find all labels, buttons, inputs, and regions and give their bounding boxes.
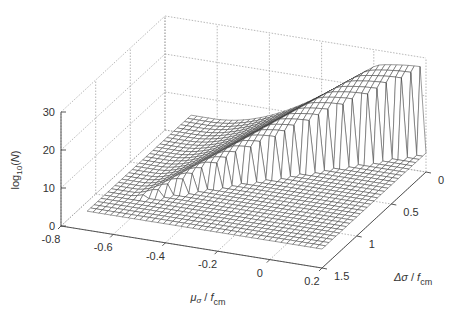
z-axis-label: log10(N) bbox=[9, 151, 24, 190]
z-tick-label: 0 bbox=[49, 220, 55, 232]
z-tick-label: 10 bbox=[43, 182, 55, 194]
z-tick-label: 20 bbox=[43, 144, 55, 156]
y-tick-mark bbox=[391, 204, 396, 205]
y-tick-label: 0.5 bbox=[403, 206, 418, 218]
left-wall-grid-line bbox=[61, 16, 165, 112]
z-tick-label: 30 bbox=[43, 106, 55, 118]
y-tick-label: 1.5 bbox=[334, 270, 349, 282]
back-wall-grid-line bbox=[165, 16, 426, 58]
x-tick-label: -0.2 bbox=[198, 258, 217, 270]
y-tick-mark bbox=[357, 236, 362, 237]
x-tick-label: -0.6 bbox=[94, 241, 113, 253]
y-tick-label: 0 bbox=[438, 174, 444, 186]
x-axis-label: μσ / fcm bbox=[189, 291, 225, 307]
x-tick-label: 0 bbox=[257, 267, 263, 279]
x-tick-mark bbox=[162, 243, 165, 246]
left-wall-grid-line bbox=[61, 54, 165, 150]
x-tick-mark bbox=[110, 234, 113, 237]
surface-mesh bbox=[87, 65, 426, 249]
x-tick-mark bbox=[58, 226, 61, 229]
y-tick-mark bbox=[426, 172, 431, 173]
x-tick-label: 0.2 bbox=[304, 275, 319, 287]
x-tick-mark bbox=[319, 268, 322, 271]
x-tick-mark bbox=[267, 260, 270, 263]
x-tick-mark bbox=[215, 251, 218, 254]
y-tick-label: 1 bbox=[369, 238, 375, 250]
y-tick-mark bbox=[322, 268, 327, 269]
y-axis-label: Δσ / fcm bbox=[393, 271, 432, 287]
x-tick-label: -0.4 bbox=[146, 250, 165, 262]
x-tick-label: -0.8 bbox=[42, 233, 61, 245]
surface-plot: -0.8-0.6-0.4-0.200.200.511.50102030 log1… bbox=[0, 0, 455, 324]
